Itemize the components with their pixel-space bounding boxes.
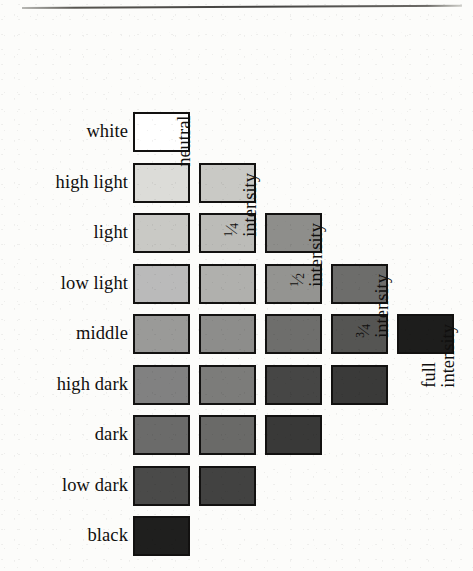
row-label-middle: middle [4,324,128,343]
row-label-white: white [4,122,128,141]
swatch-middle-quarter [199,314,256,354]
fraction-1-over-2: 1⁄2 [287,273,307,287]
header-text-line: neutral [175,115,194,166]
header-fraction-line: 1⁄2 [288,223,307,287]
swatch-dark-quarter [199,415,256,455]
swatch-middle-half [265,314,322,354]
column-header-three-quarter: 3⁄4intensity [354,274,392,338]
value-intensity-figure: whitehigh lightlightlow lightmiddlehigh … [0,0,473,571]
fraction-3-over-4: 3⁄4 [353,324,373,338]
row-label-high-light: high light [4,173,128,192]
header-text-line: intensity [241,173,260,237]
swatch-dark-neutral [133,415,190,455]
column-header-half: 1⁄2intensity [288,223,326,287]
row-label-high-dark: high dark [4,375,128,394]
row-label-low-dark: low dark [4,476,128,495]
swatch-dark-half [265,415,322,455]
header-text-line: full [420,324,439,388]
header-fraction-line: 3⁄4 [354,274,373,338]
swatch-middle-neutral [133,314,190,354]
row-label-low-light: low light [4,274,128,293]
header-fraction-line: 1⁄4 [222,173,241,237]
fraction-1-over-4: 1⁄4 [221,223,241,237]
row-label-dark: dark [4,425,128,444]
swatch-high-dark-quarter [199,365,256,405]
column-header-full: fullintensity [420,324,458,388]
swatch-light-neutral [133,213,190,253]
page-rule [22,5,462,9]
swatch-high-dark-half [265,365,322,405]
swatch-low-dark-quarter [199,466,256,506]
header-text-line: intensity [373,274,392,338]
header-text-line: intensity [307,223,326,287]
swatch-low-dark-neutral [133,466,190,506]
swatch-low-light-quarter [199,264,256,304]
column-header-quarter: 1⁄4intensity [222,173,260,237]
column-header-neutral: neutral [175,115,194,166]
swatch-high-dark-three-quarter [331,365,388,405]
row-label-light: light [4,223,128,242]
row-label-black: black [4,526,128,545]
header-text-line: intensity [439,324,458,388]
swatch-low-light-neutral [133,264,190,304]
swatch-high-dark-neutral [133,365,190,405]
swatch-high-light-neutral [133,163,190,203]
swatch-black-neutral [133,516,190,556]
